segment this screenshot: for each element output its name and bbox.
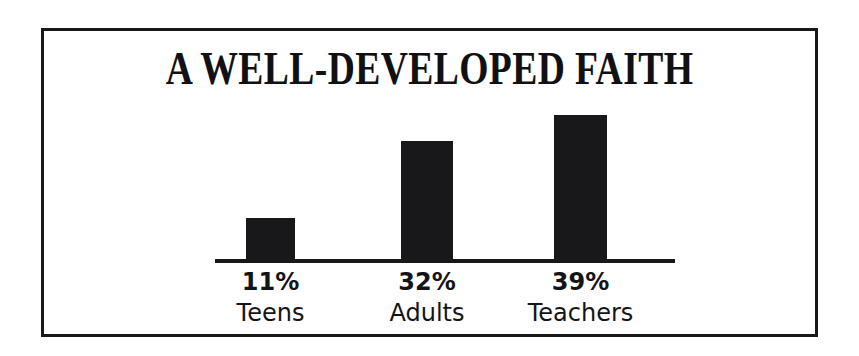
chart-title: A WELL-DEVELOPED FAITH xyxy=(121,45,738,92)
value-label-teachers: 39% xyxy=(521,267,641,297)
category-label-adults: Adults xyxy=(367,297,487,329)
scanned-page: A WELL-DEVELOPED FAITH 11%Teens32%Adults… xyxy=(0,0,859,356)
category-label-teens: Teens xyxy=(211,297,331,329)
axis-labels-row: 11%Teens32%Adults39%Teachers xyxy=(215,267,675,337)
label-group-teens: 11%Teens xyxy=(211,267,331,329)
label-group-teachers: 39%Teachers xyxy=(521,267,641,329)
bar-adults xyxy=(401,141,453,259)
value-label-adults: 32% xyxy=(367,267,487,297)
category-label-teachers: Teachers xyxy=(521,297,641,329)
bar-teens xyxy=(246,218,295,259)
chart-border: A WELL-DEVELOPED FAITH 11%Teens32%Adults… xyxy=(41,28,818,337)
x-axis-baseline xyxy=(215,259,675,263)
label-group-adults: 32%Adults xyxy=(367,267,487,329)
bar-teachers xyxy=(554,115,607,259)
value-label-teens: 11% xyxy=(211,267,331,297)
bars-layer xyxy=(215,93,675,259)
plot-area xyxy=(215,93,675,263)
